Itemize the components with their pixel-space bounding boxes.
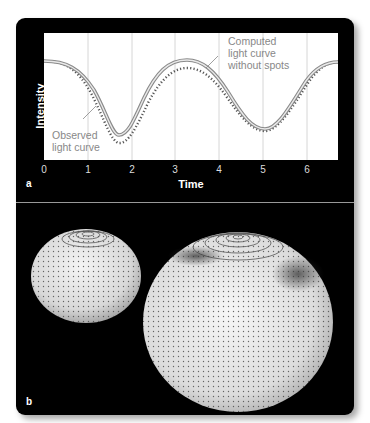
x-tick: 5 xyxy=(255,164,271,175)
x-tick: 2 xyxy=(124,164,140,175)
panel-a-label: a xyxy=(26,178,32,189)
x-tick: 6 xyxy=(299,164,315,175)
observed-curve-annotation: Observed light curve xyxy=(52,129,100,153)
x-axis-label: Time xyxy=(166,178,216,190)
annotation-line: without spots xyxy=(228,59,289,71)
x-tick: 3 xyxy=(167,164,183,175)
binary-star-model xyxy=(16,204,354,415)
figure-panel: Computed light curve without spots Obser… xyxy=(16,18,354,415)
annotation-line: light curve xyxy=(52,141,100,153)
panel-divider xyxy=(16,202,354,203)
annotation-line: light curve xyxy=(228,47,289,59)
x-tick: 4 xyxy=(211,164,227,175)
annotation-line: Observed xyxy=(52,129,100,141)
large-star-with-spots xyxy=(143,232,333,412)
small-star xyxy=(31,229,141,323)
x-tick: 0 xyxy=(36,164,52,175)
x-tick: 1 xyxy=(80,164,96,175)
annotation-line: Computed xyxy=(228,35,289,47)
starspot xyxy=(168,246,224,266)
starspot xyxy=(272,256,324,292)
panel-b-label: b xyxy=(26,396,32,407)
computed-curve-annotation: Computed light curve without spots xyxy=(228,35,289,71)
y-axis-label: Intensity xyxy=(34,76,46,136)
